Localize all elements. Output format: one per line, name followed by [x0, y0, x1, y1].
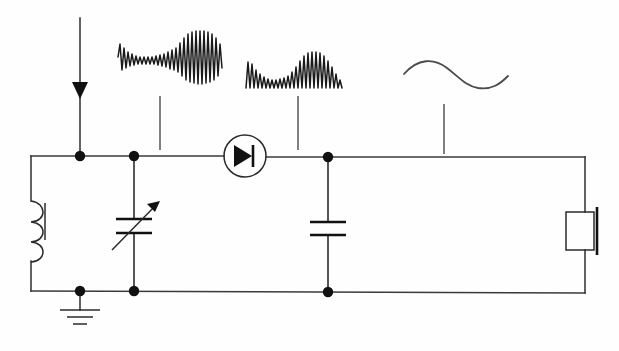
bottom-rail — [31, 291, 585, 293]
circuit-diagram — [0, 0, 619, 351]
waveform-rectified-trace — [246, 52, 342, 88]
node-antenna-bottom — [75, 286, 85, 296]
waveform-audio — [404, 61, 508, 154]
node-filter-top — [323, 152, 333, 162]
earphone-body-icon — [566, 212, 594, 250]
junction-nodes — [75, 151, 333, 297]
node-tuning-bottom — [129, 286, 139, 296]
circuit-rails — [31, 156, 585, 293]
waveform-modulated-rf-trace — [118, 31, 222, 84]
variable-capacitor-arrow-head-icon — [147, 201, 160, 212]
waveform-modulated-rf — [118, 31, 222, 150]
waveform-rectified — [246, 52, 342, 150]
waveform-audio-trace — [404, 61, 508, 88]
diode-triangle-icon — [234, 145, 252, 167]
filter-capacitor — [310, 157, 346, 292]
earphone — [566, 207, 597, 255]
antenna-input — [72, 18, 88, 156]
variable-capacitor-arrow-shaft — [112, 203, 158, 250]
inductor-coil-icon — [31, 201, 43, 262]
antenna-arrow-icon — [72, 82, 88, 99]
variable-capacitor — [112, 156, 160, 292]
diode-detector — [224, 135, 266, 177]
node-tuning-top — [129, 151, 139, 161]
node-antenna-top — [75, 151, 85, 161]
ground — [60, 292, 100, 324]
inductor — [31, 201, 45, 262]
node-filter-bottom — [323, 287, 333, 297]
